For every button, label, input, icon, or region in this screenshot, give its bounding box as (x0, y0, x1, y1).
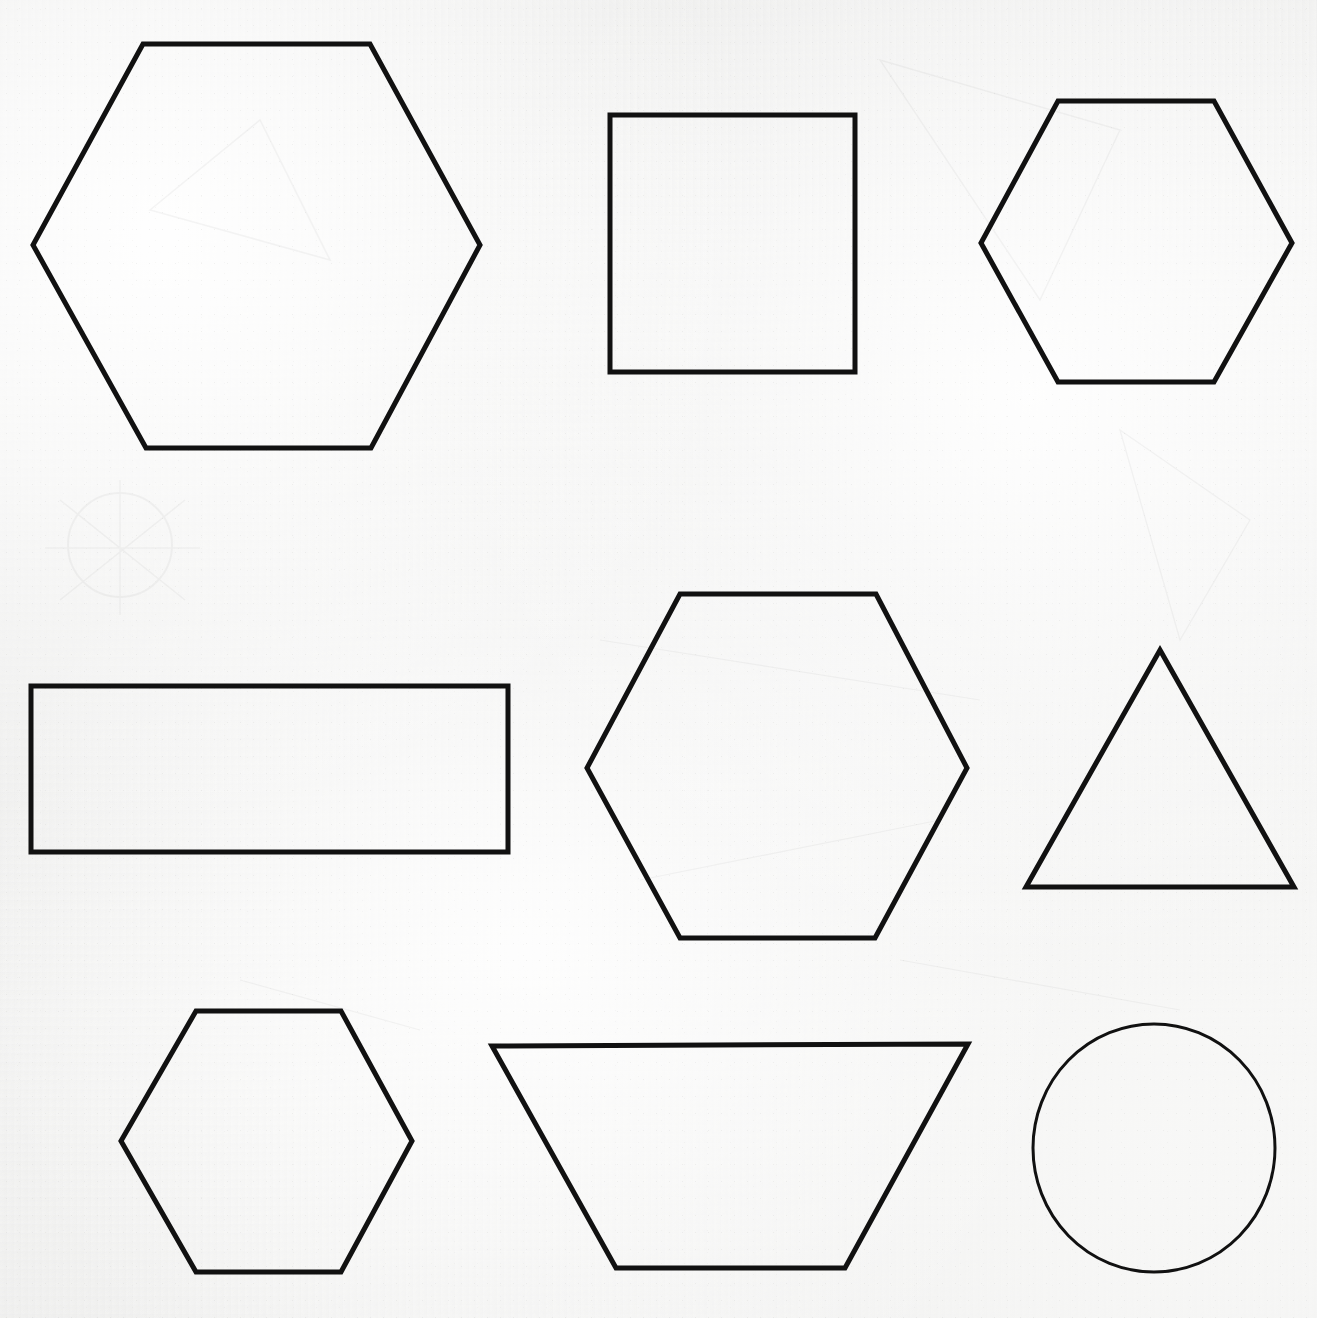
rectangle-wide[interactable] (31, 686, 508, 852)
hexagon-bottom-left[interactable] (121, 1011, 412, 1272)
hexagon-middle[interactable] (587, 594, 967, 938)
shapes-svg-canvas (0, 0, 1317, 1318)
triangle[interactable] (1026, 650, 1294, 887)
shapes-page (0, 0, 1317, 1318)
hexagon-top-right[interactable] (981, 101, 1292, 382)
shapes-layer (0, 0, 1317, 1318)
circle[interactable] (1033, 1024, 1275, 1272)
square[interactable] (610, 115, 855, 372)
trapezoid[interactable] (492, 1044, 968, 1268)
hexagon-large[interactable] (33, 44, 480, 448)
